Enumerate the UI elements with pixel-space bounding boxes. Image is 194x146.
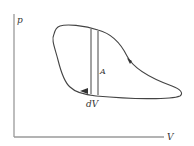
x-axis-label: V bbox=[167, 132, 175, 142]
y-axis-label: p bbox=[17, 15, 23, 25]
area-label: A bbox=[99, 67, 106, 76]
cycle-loop bbox=[53, 25, 182, 99]
pv-diagram: p V A dV bbox=[0, 0, 194, 146]
dv-label: dV bbox=[86, 99, 100, 109]
